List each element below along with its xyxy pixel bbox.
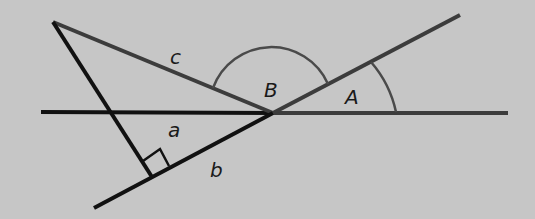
geometry-diagram: c a b B A (0, 0, 535, 219)
upper-right-ray (273, 15, 460, 113)
label-c: c (170, 45, 181, 69)
angle-arc-A (371, 62, 396, 112)
right-angle-marker (143, 149, 169, 166)
label-a: a (168, 118, 180, 142)
perpendicular-line (53, 22, 152, 177)
horizontal-line-left (41, 112, 273, 113)
label-b: b (210, 158, 223, 182)
diagram-canvas: c a b B A (0, 0, 535, 219)
label-B: B (264, 78, 278, 102)
label-A: A (343, 85, 359, 109)
side-c (53, 22, 273, 113)
